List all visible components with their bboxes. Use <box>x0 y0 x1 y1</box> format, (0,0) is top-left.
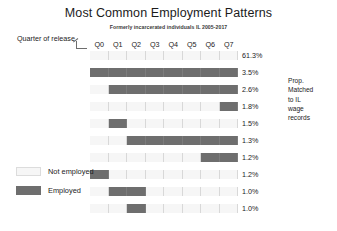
pattern-cell-q3 <box>146 204 165 213</box>
pattern-cell-q4 <box>164 187 183 196</box>
pattern-cell-q0 <box>90 136 109 145</box>
pattern-cell-q6 <box>201 68 220 77</box>
x-axis-annotation: Quarter of release <box>17 34 75 43</box>
pattern-cell-q7 <box>220 68 239 77</box>
row-percent-label: 1.3% <box>242 136 276 145</box>
x-tick-q1: Q1 <box>109 40 128 49</box>
pattern-cell-q0 <box>90 119 109 128</box>
pattern-cell-q5 <box>183 68 202 77</box>
pattern-row: 1.3% <box>90 136 238 145</box>
pattern-cell-q6 <box>201 153 220 162</box>
row-percent-label: 1.8% <box>242 102 276 111</box>
pattern-row: 1.5% <box>90 119 238 128</box>
row-percent-label: 1.0% <box>242 187 276 196</box>
pattern-cell-q3 <box>146 102 165 111</box>
pattern-cell-q0 <box>90 204 109 213</box>
pattern-cell-q1 <box>109 136 128 145</box>
side-note-line: records <box>288 113 334 122</box>
pattern-cell-q1 <box>109 85 128 94</box>
x-axis-tick-labels: Q0Q1Q2Q3Q4Q5Q6Q7 <box>90 40 238 49</box>
pattern-cell-q4 <box>164 51 183 60</box>
pattern-cell-q2 <box>127 85 146 94</box>
legend: Not employedEmployed <box>16 167 94 205</box>
legend-swatch-employed <box>16 186 41 195</box>
x-tick-q3: Q3 <box>146 40 165 49</box>
pattern-cell-q7 <box>220 119 239 128</box>
pattern-cell-q5 <box>183 102 202 111</box>
pattern-cell-q1 <box>109 170 128 179</box>
pattern-cell-q2 <box>127 187 146 196</box>
pattern-cell-q0 <box>90 85 109 94</box>
pattern-cell-q6 <box>201 85 220 94</box>
pattern-row: 3.5% <box>90 68 238 77</box>
legend-item-not-employed[interactable]: Not employed <box>16 167 94 176</box>
pattern-cell-q5 <box>183 187 202 196</box>
pattern-cell-q6 <box>201 102 220 111</box>
pattern-row: 1.0% <box>90 204 238 213</box>
legend-item-employed[interactable]: Employed <box>16 186 94 195</box>
pattern-cell-q7 <box>220 153 239 162</box>
pattern-cell-q4 <box>164 85 183 94</box>
legend-swatch-not-employed <box>16 167 41 176</box>
x-tick-q2: Q2 <box>127 40 146 49</box>
side-note-line: wage <box>288 104 334 113</box>
pattern-cell-q4 <box>164 102 183 111</box>
pattern-cell-q5 <box>183 204 202 213</box>
side-note-line: to IL <box>288 95 334 104</box>
x-tick-q5: Q5 <box>183 40 202 49</box>
x-tick-q6: Q6 <box>201 40 220 49</box>
pattern-cell-q1 <box>109 187 128 196</box>
pattern-cell-q4 <box>164 170 183 179</box>
pattern-cell-q4 <box>164 68 183 77</box>
chart-subtitle: Formerly incarcerated individuals IL 200… <box>0 24 337 30</box>
pattern-row: 1.8% <box>90 102 238 111</box>
pattern-cell-q6 <box>201 187 220 196</box>
pattern-cell-q2 <box>127 51 146 60</box>
pattern-cell-q1 <box>109 153 128 162</box>
pattern-row: 1.2% <box>90 170 238 179</box>
pattern-cell-q2 <box>127 119 146 128</box>
pattern-cell-q0 <box>90 102 109 111</box>
pattern-cell-q3 <box>146 136 165 145</box>
pattern-cell-q2 <box>127 102 146 111</box>
pattern-cell-q4 <box>164 153 183 162</box>
x-tick-q0: Q0 <box>90 40 109 49</box>
pattern-cell-q6 <box>201 119 220 128</box>
legend-label: Employed <box>48 186 81 195</box>
row-percent-label: 1.0% <box>242 204 276 213</box>
row-percent-label: 3.5% <box>242 68 276 77</box>
x-tick-q7: Q7 <box>220 40 239 49</box>
pattern-cell-q5 <box>183 136 202 145</box>
pattern-cell-q1 <box>109 68 128 77</box>
pattern-cell-q7 <box>220 204 239 213</box>
pattern-row: 1.2% <box>90 153 238 162</box>
chart-canvas: Most Common Employment Patterns Formerly… <box>0 0 337 231</box>
row-percent-label: 1.5% <box>242 119 276 128</box>
pattern-cell-q7 <box>220 85 239 94</box>
row-percent-label: 2.6% <box>242 85 276 94</box>
pattern-cell-q6 <box>201 51 220 60</box>
pattern-cell-q2 <box>127 153 146 162</box>
annotation-leader-line <box>76 41 87 49</box>
pattern-cell-q2 <box>127 204 146 213</box>
pattern-cell-q0 <box>90 68 109 77</box>
pattern-cell-q3 <box>146 119 165 128</box>
pattern-cell-q7 <box>220 170 239 179</box>
pattern-cell-q5 <box>183 170 202 179</box>
pattern-row: 2.6% <box>90 85 238 94</box>
page-title: Most Common Employment Patterns <box>0 6 337 20</box>
pattern-cell-q0 <box>90 51 109 60</box>
pattern-cell-q6 <box>201 136 220 145</box>
pattern-cell-q1 <box>109 51 128 60</box>
side-note-line: Matched <box>288 85 334 94</box>
y-axis-annotation: Prop.Matchedto ILwagerecords <box>288 76 334 122</box>
row-percent-label: 61.3% <box>242 51 276 60</box>
pattern-cell-q6 <box>201 204 220 213</box>
pattern-cell-q3 <box>146 85 165 94</box>
pattern-row: 61.3% <box>90 51 238 60</box>
pattern-cell-q3 <box>146 51 165 60</box>
pattern-cell-q3 <box>146 153 165 162</box>
pattern-cell-q7 <box>220 102 239 111</box>
pattern-cell-q4 <box>164 136 183 145</box>
row-percent-label: 1.2% <box>242 153 276 162</box>
